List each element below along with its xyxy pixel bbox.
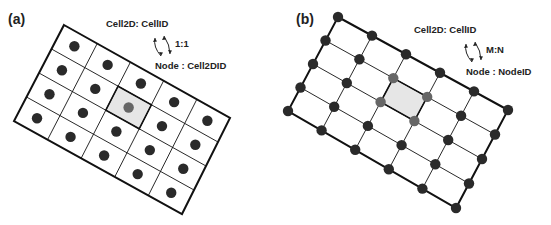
mesh-node	[464, 178, 474, 188]
mesh-node	[308, 59, 318, 69]
panel-b-label: (b)	[296, 11, 314, 27]
cell-center-node	[99, 150, 109, 160]
mesh-node	[417, 183, 427, 193]
cell-center-node	[65, 132, 75, 142]
mesh-node	[342, 78, 352, 88]
mesh-node	[503, 105, 513, 115]
mesh-node	[384, 164, 394, 174]
highlighted-node	[422, 92, 432, 102]
mesh-node	[443, 135, 453, 145]
cell-center-node	[90, 84, 100, 94]
mesh-node	[469, 86, 479, 96]
panel-b-title: Cell2D: CellID	[414, 24, 476, 35]
panel-b-relation: M:N	[486, 44, 504, 55]
panel-b-subtitle: Node : NodeID	[466, 66, 532, 77]
cell-center-node	[57, 65, 67, 75]
panel-a-label: (a)	[8, 11, 25, 27]
cell-center-node	[136, 78, 146, 88]
mesh-node	[401, 49, 411, 59]
mesh-node	[363, 121, 373, 131]
mesh-node	[367, 30, 377, 40]
panel-b-node-mesh	[283, 12, 513, 213]
highlighted-node	[409, 116, 419, 126]
mesh-node	[477, 154, 487, 164]
mesh-node	[451, 203, 461, 213]
cell-center-node	[78, 108, 88, 118]
mesh-node	[329, 102, 339, 112]
mesh-node	[350, 145, 360, 155]
cell-center-node	[190, 140, 200, 150]
highlighted-node	[123, 102, 133, 112]
cell-center-node	[111, 126, 121, 136]
cell-center-node	[166, 188, 176, 198]
panel-a-cell-center-mesh	[14, 25, 230, 214]
highlighted-node	[388, 73, 398, 83]
mesh-node	[283, 106, 293, 116]
mesh-node	[396, 140, 406, 150]
mesh-node	[430, 159, 440, 169]
mesh-node	[333, 12, 343, 22]
mesh-node	[320, 35, 330, 45]
mesh-node	[435, 68, 445, 78]
cell-center-node	[145, 145, 155, 155]
mesh-node	[354, 54, 364, 64]
mesh-node	[490, 129, 500, 139]
diagram-canvas: (a) Cell2D: CellID 1:1 Node : Cell2DID (…	[0, 0, 551, 225]
bidirectional-arrow-icon	[153, 36, 172, 56]
cell-center-node	[44, 89, 54, 99]
bidirectional-arrow-icon	[464, 42, 483, 62]
cell-center-node	[69, 41, 79, 51]
highlighted-node	[375, 97, 385, 107]
mesh-node	[316, 125, 326, 135]
cell-center-node	[102, 60, 112, 70]
cell-center-node	[178, 164, 188, 174]
cell-center-node	[202, 116, 212, 126]
mesh-node	[456, 111, 466, 121]
cell-center-node	[157, 121, 167, 131]
cell-center-node	[169, 97, 179, 107]
panel-a-title: Cell2D: CellID	[106, 18, 168, 29]
panel-a-subtitle: Node : Cell2DID	[155, 60, 226, 71]
mesh-node	[295, 82, 305, 92]
panel-a-relation: 1:1	[175, 38, 189, 49]
cell-center-node	[32, 113, 42, 123]
cell-center-node	[132, 169, 142, 179]
